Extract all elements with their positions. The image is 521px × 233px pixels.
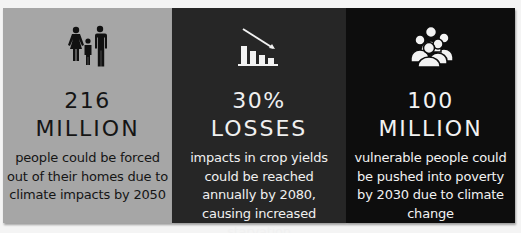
stat-unit: MILLION	[3, 116, 172, 142]
stat-panel-crop-losses: 30% LOSSES impacts in crop yields could …	[172, 8, 346, 223]
stat-panel-displacement: 216 MILLION people could be forced out o…	[3, 8, 172, 223]
stat-number: 216	[3, 88, 172, 114]
stat-unit: MILLION	[346, 116, 515, 142]
stat-number: 30%	[172, 88, 346, 114]
stat-description: impacts in crop yields could be reached …	[176, 149, 342, 233]
group-of-people-icon	[409, 24, 453, 68]
stat-number: 100	[346, 88, 515, 114]
stat-description: people could be forced out of their home…	[7, 149, 168, 205]
declining-bar-chart-icon	[237, 24, 281, 68]
stat-description: vulnerable people could be pushed into p…	[350, 149, 511, 223]
stat-unit: LOSSES	[172, 116, 346, 142]
family-icon	[66, 24, 110, 68]
stat-panel-poverty: 100 MILLION vulnerable people could be p…	[346, 8, 515, 223]
